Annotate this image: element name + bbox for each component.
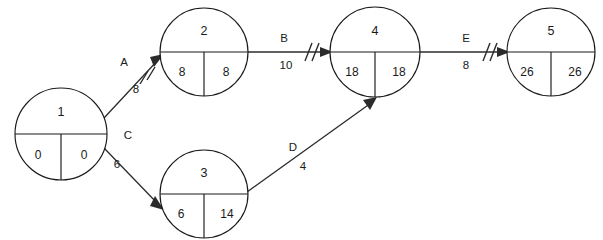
edge-c-label: C <box>124 129 132 141</box>
edge-d-arrowhead <box>363 97 377 110</box>
network-diagram-canvas: A 8 C 6 B 10 D <box>0 0 603 240</box>
edge-d-duration: 4 <box>300 160 307 172</box>
node-4-event-number: 4 <box>372 24 379 38</box>
edge-e-label: E <box>462 32 470 44</box>
node-4-group[interactable]: 4 18 18 <box>330 7 420 97</box>
node-1-latest-time: 0 <box>81 148 88 162</box>
edge-c-line <box>104 148 158 204</box>
node-4-earliest-time: 18 <box>345 65 359 79</box>
edge-e-duration: 8 <box>463 59 469 71</box>
node-3-earliest-time: 6 <box>178 207 185 221</box>
edge-a-line <box>104 60 158 118</box>
edge-a-group[interactable]: A 8 <box>104 54 164 118</box>
node-1-group[interactable]: 1 0 0 <box>15 88 107 180</box>
edge-a-hatch-2 <box>147 67 155 80</box>
node-3-latest-time: 14 <box>220 207 234 221</box>
node-2-event-number: 2 <box>201 24 208 38</box>
node-2-group[interactable]: 2 8 8 <box>160 8 248 96</box>
edge-a-label: A <box>120 56 128 68</box>
node-2-earliest-time: 8 <box>179 65 186 79</box>
node-3-event-number: 3 <box>201 166 208 180</box>
node-5-latest-time: 26 <box>568 65 582 79</box>
node-5-group[interactable]: 5 26 26 <box>507 8 595 96</box>
edge-e-group[interactable]: E 8 <box>420 32 510 71</box>
edge-a-duration: 8 <box>133 83 139 95</box>
network-diagram-svg: A 8 C 6 B 10 D <box>0 0 603 240</box>
edge-b-label: B <box>280 32 288 44</box>
edge-d-line <box>247 103 371 192</box>
node-1-event-number: 1 <box>58 105 65 119</box>
node-1-earliest-time: 0 <box>35 148 42 162</box>
edge-c-duration: 6 <box>114 158 120 170</box>
node-2-latest-time: 8 <box>223 65 230 79</box>
node-3-group[interactable]: 3 6 14 <box>160 150 248 238</box>
edge-b-group[interactable]: B 10 <box>248 32 333 71</box>
edge-d-group[interactable]: D 4 <box>247 97 377 192</box>
nodes-layer: 1 0 0 2 8 8 3 6 14 <box>15 7 595 238</box>
node-5-event-number: 5 <box>548 24 555 38</box>
edge-b-duration: 10 <box>280 59 293 71</box>
node-4-latest-time: 18 <box>392 65 406 79</box>
edge-d-label: D <box>289 141 297 153</box>
node-5-earliest-time: 26 <box>520 65 534 79</box>
edge-c-group[interactable]: C 6 <box>104 129 164 210</box>
